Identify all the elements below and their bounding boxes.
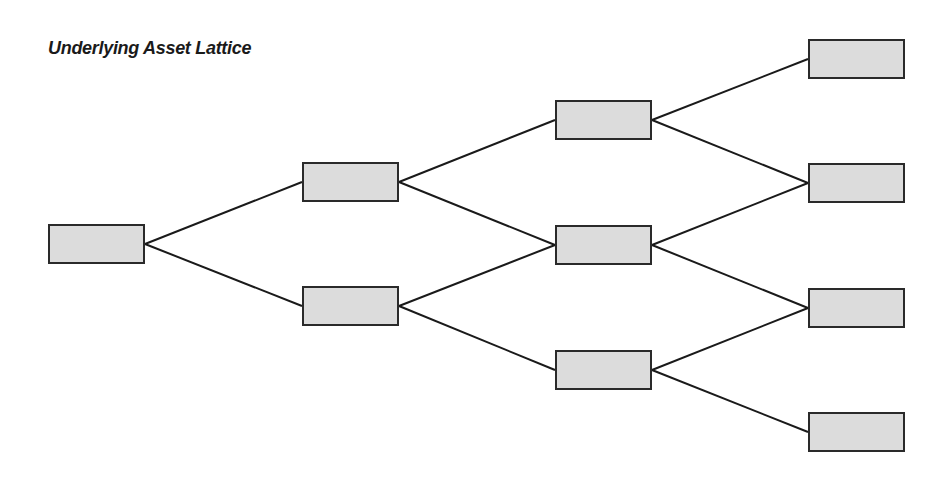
lattice-edge: [652, 59, 808, 120]
lattice-node-n3_2: [808, 288, 905, 328]
lattice-edge: [652, 370, 808, 432]
lattice-edge: [652, 308, 808, 370]
lattice-node-n3_1: [808, 163, 905, 203]
lattice-edge: [399, 245, 555, 306]
lattice-node-n3_3: [808, 412, 905, 452]
lattice-edge: [399, 120, 555, 182]
lattice-edge: [399, 306, 555, 370]
lattice-node-n0_0: [48, 224, 145, 264]
lattice-node-n1_0: [302, 162, 399, 202]
lattice-edge: [145, 244, 302, 306]
lattice-edge: [652, 183, 808, 245]
lattice-edge: [145, 182, 302, 244]
lattice-edge: [652, 245, 808, 308]
lattice-edge: [399, 182, 555, 245]
lattice-node-n2_2: [555, 350, 652, 390]
lattice-node-n3_0: [808, 39, 905, 79]
lattice-edge: [652, 120, 808, 183]
lattice-node-n2_1: [555, 225, 652, 265]
lattice-node-n1_1: [302, 286, 399, 326]
lattice-node-n2_0: [555, 100, 652, 140]
